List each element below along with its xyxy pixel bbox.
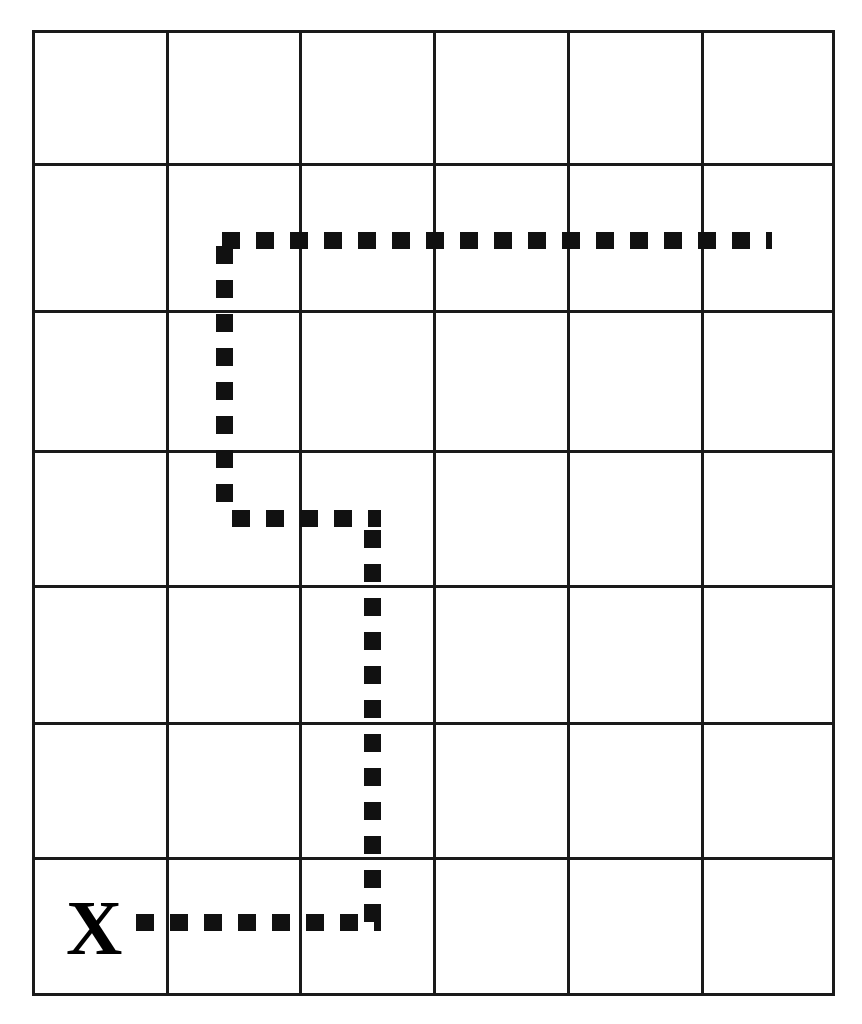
path-dash-4-3 [324, 232, 342, 249]
path-dash-3-0 [216, 246, 233, 264]
path-dash-4-8 [494, 232, 512, 249]
path-dash-3-4 [216, 382, 233, 400]
path-dash-4-11 [596, 232, 614, 249]
path-dash-4-0 [222, 232, 240, 249]
path-dash-0-6 [340, 914, 358, 931]
path-dash-0-0 [136, 914, 154, 931]
path-dash-4-9 [528, 232, 546, 249]
path-dash-0-5 [306, 914, 324, 931]
path-dash-4-4 [358, 232, 376, 249]
path-dash-4-14 [698, 232, 716, 249]
path-dash-1-8 [364, 802, 381, 820]
grid-lines-group [33, 31, 833, 994]
path-dash-4-2 [290, 232, 308, 249]
path-dash-4-15 [732, 232, 750, 249]
path-dash-1-5 [364, 700, 381, 718]
path-dash-2-3 [334, 510, 352, 527]
dashed-path-group [136, 232, 772, 931]
path-dash-2-0 [232, 510, 250, 527]
path-dash-4-5 [392, 232, 410, 249]
grid-diagram [0, 0, 862, 1024]
path-dash-1-4 [364, 666, 381, 684]
path-dash-0-4 [272, 914, 290, 931]
path-dash-3-7 [216, 484, 233, 502]
path-dash-2-1 [266, 510, 284, 527]
path-dash-1-2 [364, 598, 381, 616]
path-dash-1-6 [364, 734, 381, 752]
path-dash-4-10 [562, 232, 580, 249]
diagram-canvas: X [0, 0, 862, 1024]
path-dash-2-4 [368, 510, 381, 527]
path-dash-3-3 [216, 348, 233, 366]
path-dash-4-6 [426, 232, 444, 249]
path-dash-2-2 [300, 510, 318, 527]
path-dash-1-9 [364, 836, 381, 854]
path-dash-4-1 [256, 232, 274, 249]
path-dash-0-2 [204, 914, 222, 931]
path-dash-4-12 [630, 232, 648, 249]
path-dash-3-5 [216, 416, 233, 434]
path-dash-1-7 [364, 768, 381, 786]
path-dash-4-16 [766, 232, 772, 249]
path-dash-4-7 [460, 232, 478, 249]
path-dash-0-1 [170, 914, 188, 931]
path-dash-3-2 [216, 314, 233, 332]
path-dash-4-13 [664, 232, 682, 249]
path-dash-3-1 [216, 280, 233, 298]
path-dash-0-3 [238, 914, 256, 931]
path-dash-1-11 [364, 904, 381, 922]
path-dash-1-3 [364, 632, 381, 650]
path-dash-1-1 [364, 564, 381, 582]
path-dash-3-6 [216, 450, 233, 468]
path-dash-1-10 [364, 870, 381, 888]
path-dash-1-0 [364, 530, 381, 548]
x-start-marker: X [66, 889, 122, 967]
